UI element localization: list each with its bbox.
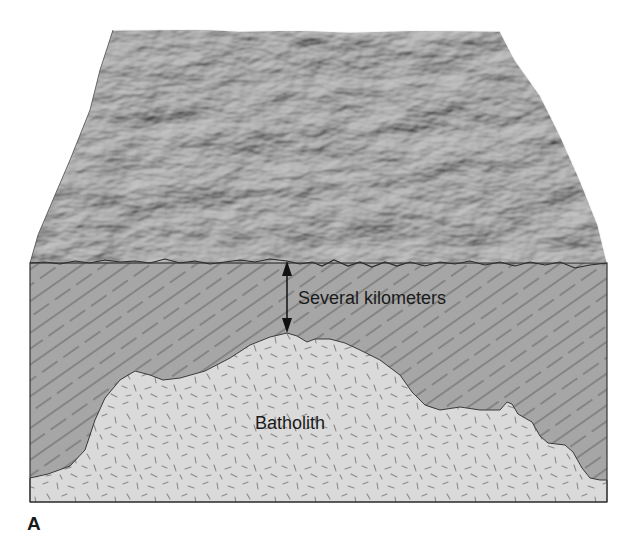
batholith-label: Batholith <box>255 413 325 434</box>
panel-label: A <box>27 513 41 535</box>
depth-label: Several kilometers <box>298 288 446 309</box>
land-surface <box>30 29 607 263</box>
batholith-block-diagram <box>0 0 631 540</box>
